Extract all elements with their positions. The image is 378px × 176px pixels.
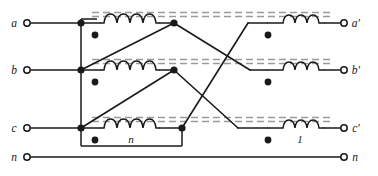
sec-diagonal-c: [174, 70, 238, 128]
terminal-circle-c[interactable]: [24, 125, 30, 131]
polarity-dot-secondary-b: [265, 79, 272, 86]
polarity-dot-secondary-c: [265, 137, 272, 144]
terminal-label-n-prime: n: [352, 151, 358, 163]
terminal-label-n: n: [11, 151, 17, 163]
right-leads-group: [325, 23, 341, 128]
primary-coil-phase-a: [100, 14, 160, 23]
terminal-circle-a[interactable]: [24, 20, 30, 26]
node-bus-a: [77, 19, 84, 26]
labels-group: a b c n a′ b′ c′ n n 1: [11, 17, 360, 163]
terminal-label-a: a: [11, 17, 17, 29]
terminal-circle-n[interactable]: [24, 154, 30, 160]
polarity-dot-primary-a: [92, 32, 99, 39]
terminal-circle-c-prime[interactable]: [341, 125, 347, 131]
terminal-circle-n-prime[interactable]: [341, 154, 347, 160]
primary-coil-outputs: [160, 23, 182, 128]
primary-diagonal-links: [81, 23, 174, 128]
transformer-connection-diagram: a b c n a′ b′ c′ n n 1: [0, 0, 378, 176]
terminal-label-b: b: [11, 64, 17, 76]
polarity-dot-primary-b: [92, 79, 99, 86]
terminal-circle-a-prime[interactable]: [341, 20, 347, 26]
terminal-label-a-prime: a′: [352, 17, 361, 29]
node-pri-out-b: [170, 66, 177, 73]
terminal-label-b-prime: b′: [352, 64, 361, 76]
primary-coil-phase-b: [100, 61, 160, 70]
node-bus-c: [77, 124, 84, 131]
left-leads-group: [31, 23, 341, 157]
primary-turns-label: n: [128, 133, 134, 145]
terminal-circle-b-prime[interactable]: [341, 67, 347, 73]
primary-coil-phase-c: [100, 119, 160, 128]
polarity-dot-primary-c: [92, 137, 99, 144]
node-bus-b: [77, 66, 84, 73]
terminal-circle-b[interactable]: [24, 67, 30, 73]
secondary-input-links: [174, 23, 267, 128]
terminal-label-c: c: [11, 122, 16, 134]
node-pri-out-c: [178, 124, 185, 131]
node-pri-out-a: [170, 19, 177, 26]
sec-diagonal-a: [182, 23, 248, 128]
polarity-dot-secondary-a: [265, 32, 272, 39]
circuit-canvas: a b c n a′ b′ c′ n n 1: [0, 0, 378, 176]
secondary-turns-label: 1: [297, 133, 303, 145]
terminal-label-c-prime: c′: [352, 122, 360, 134]
